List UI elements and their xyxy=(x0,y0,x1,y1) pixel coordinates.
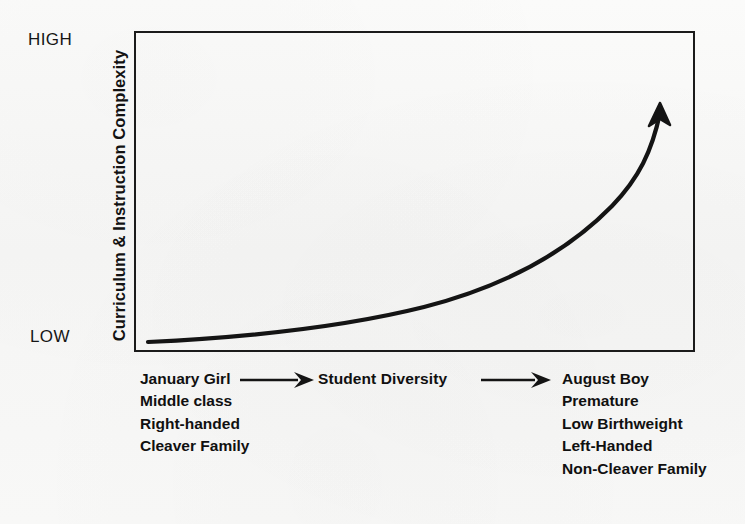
complexity-curve xyxy=(148,113,660,342)
plot-curve-layer xyxy=(134,31,695,352)
arrow-right-icon xyxy=(481,370,553,390)
y-axis-high-label: HIGH xyxy=(28,30,72,50)
x-axis-pole-left: January Girl Middle class Right-handed C… xyxy=(140,368,249,458)
chart-figure: HIGH LOW Curriculum & Instruction Comple… xyxy=(0,0,745,524)
pole-left-item: Cleaver Family xyxy=(140,435,249,457)
y-axis-low-label: LOW xyxy=(30,327,70,347)
pole-right-item: Low Birthweight xyxy=(562,413,707,435)
pole-right-item: August Boy xyxy=(562,368,707,390)
y-axis-title: Curriculum & Instruction Complexity xyxy=(110,31,129,361)
pole-left-item: Middle class xyxy=(140,390,249,412)
pole-left-item: January Girl xyxy=(140,368,249,390)
pole-right-item: Non-Cleaver Family xyxy=(562,458,707,480)
x-axis-band: January Girl Middle class Right-handed C… xyxy=(0,368,745,524)
pole-right-item: Left-Handed xyxy=(562,435,707,457)
pole-left-item: Right-handed xyxy=(140,413,249,435)
x-axis-pole-right: August Boy Premature Low Birthweight Lef… xyxy=(562,368,707,480)
pole-right-item: Premature xyxy=(562,390,707,412)
x-axis-title: Student Diversity xyxy=(318,368,447,390)
arrow-right-icon xyxy=(240,370,316,390)
